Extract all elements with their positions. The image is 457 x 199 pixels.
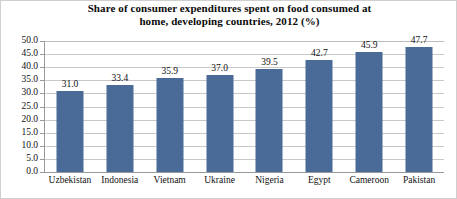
- bar-value-label: 31.0: [62, 79, 79, 89]
- x-axis-category-label: Vietnam: [145, 175, 195, 186]
- bar-slot: 37.0: [195, 41, 245, 172]
- bar[interactable]: [106, 85, 133, 173]
- bar[interactable]: [56, 91, 83, 172]
- y-axis-tick-label: 25.0: [4, 102, 38, 112]
- x-axis-category-label: Nigeria: [245, 175, 295, 186]
- y-axis-tick-label: 30.0: [4, 88, 38, 98]
- y-axis-tick-label: 35.0: [4, 75, 38, 85]
- x-axis-category-label: Uzbekistan: [45, 175, 95, 186]
- y-axis-tick-label: 40.0: [4, 62, 38, 72]
- bar[interactable]: [356, 52, 383, 172]
- bar-slot: 45.9: [344, 41, 394, 172]
- bar[interactable]: [306, 60, 333, 172]
- bar-value-label: 47.7: [411, 35, 428, 45]
- bar-value-label: 33.4: [112, 73, 129, 83]
- y-axis-tick: [40, 54, 44, 55]
- bar-slot: 31.0: [45, 41, 95, 172]
- y-axis-tick: [40, 146, 44, 147]
- bar-slot: 35.9: [145, 41, 195, 172]
- y-axis-tick-label: 45.0: [4, 49, 38, 59]
- y-axis-tick-label: 20.0: [4, 115, 38, 125]
- bar-slot: 47.7: [394, 41, 444, 172]
- y-axis-tick: [40, 93, 44, 94]
- bar[interactable]: [206, 75, 233, 172]
- bar[interactable]: [406, 47, 433, 172]
- chart-title-line-2: home, developing countries, 2012 (%): [1, 15, 457, 28]
- y-axis-tick: [40, 107, 44, 108]
- bar-slot: 33.4: [95, 41, 145, 172]
- bar-slot: 42.7: [294, 41, 344, 172]
- x-axis-category-label: Pakistan: [394, 175, 444, 186]
- bar-value-label: 42.7: [311, 48, 328, 58]
- y-axis-tick-label: 15.0: [4, 128, 38, 138]
- x-axis-line: [44, 172, 444, 173]
- bar-value-label: 35.9: [161, 66, 178, 76]
- bar-value-label: 45.9: [361, 40, 378, 50]
- bar-slot: 39.5: [245, 41, 295, 172]
- y-axis-tick: [40, 41, 44, 42]
- y-axis-tick: [40, 120, 44, 121]
- y-axis-tick: [40, 172, 44, 173]
- bar-chart: Share of consumer expenditures spent on …: [0, 0, 457, 199]
- y-axis-tick-label: 50.0: [4, 36, 38, 46]
- y-axis-tick: [40, 67, 44, 68]
- y-axis-tick-labels: 50.045.040.035.030.025.020.015.010.05.00…: [1, 1, 38, 199]
- plot-area: 31.033.435.937.039.542.745.947.7: [45, 41, 444, 172]
- y-axis-tick: [40, 159, 44, 160]
- x-axis-category-label: Egypt: [294, 175, 344, 186]
- bar[interactable]: [256, 69, 283, 172]
- y-axis-tick-label: 5.0: [4, 154, 38, 164]
- x-axis-category-labels: UzbekistanIndonesiaVietnamUkraineNigeria…: [45, 175, 444, 191]
- bar[interactable]: [156, 78, 183, 172]
- y-axis-tick: [40, 133, 44, 134]
- x-axis-category-label: Cameroon: [344, 175, 394, 186]
- y-axis-tick-label: 10.0: [4, 141, 38, 151]
- chart-title: Share of consumer expenditures spent on …: [1, 2, 457, 28]
- y-axis-tick: [40, 80, 44, 81]
- bar-value-label: 37.0: [211, 63, 228, 73]
- y-axis-tick-label: 0.0: [4, 167, 38, 177]
- x-axis-category-label: Ukraine: [195, 175, 245, 186]
- bar-value-label: 39.5: [261, 57, 278, 67]
- x-axis-category-label: Indonesia: [95, 175, 145, 186]
- chart-title-line-1: Share of consumer expenditures spent on …: [1, 2, 457, 15]
